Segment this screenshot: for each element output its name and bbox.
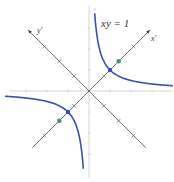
x-prime-axis-label: x' xyxy=(150,34,157,43)
y-axis-label: y xyxy=(93,6,97,11)
hyperbola-branch-third-quadrant xyxy=(5,96,83,169)
equation-label: xy = 1 xyxy=(100,17,129,29)
y-prime-axis xyxy=(28,30,146,148)
vertex-first-quadrant-point xyxy=(108,68,112,72)
focus-first-quadrant-point xyxy=(116,59,120,63)
x-prime-axis xyxy=(32,30,150,148)
y-prime-axis-label: y' xyxy=(36,26,43,35)
focus-third-quadrant-point xyxy=(57,118,61,122)
hyperbola-diagram: xy = 1 x' y' y x xyxy=(0,0,174,182)
vertex-third-quadrant-point xyxy=(66,110,70,114)
